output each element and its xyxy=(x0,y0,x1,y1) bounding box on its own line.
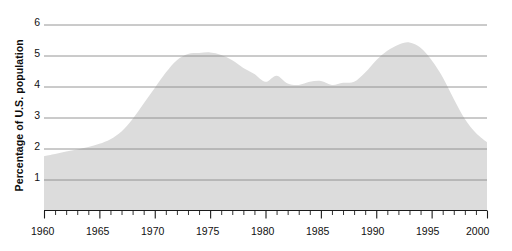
area-series-path xyxy=(44,42,487,210)
chart-container: Percentage of U.S. population 6 5 4 3 2 … xyxy=(0,0,512,251)
plot-area xyxy=(0,0,512,251)
x-axis-ticks xyxy=(45,211,488,219)
